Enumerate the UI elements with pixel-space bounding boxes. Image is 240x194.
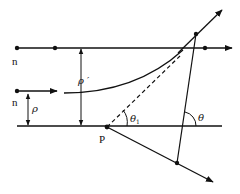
lower-arrow — [107, 127, 213, 182]
label-n-mid: n — [12, 97, 18, 108]
label-rho: ρ — [32, 104, 38, 114]
incoming-dot — [15, 89, 19, 93]
theta1-arc — [123, 110, 127, 126]
theta-arc — [185, 112, 196, 126]
label-point-P: P — [99, 134, 105, 145]
curved-trajectory — [64, 50, 183, 93]
label-n-top: n — [12, 56, 18, 67]
top-right-dot — [203, 46, 207, 50]
label-rho-prime: ρ ′ — [78, 76, 89, 86]
label-theta: θ — [198, 113, 204, 123]
theta1-subscript: 1 — [136, 118, 140, 125]
top-left-dot — [15, 46, 19, 50]
label-theta1: θ1 — [130, 114, 140, 125]
dashed-asymptote — [107, 56, 180, 127]
outgoing-arrow — [178, 10, 222, 53]
scattering-diagram — [0, 0, 240, 194]
top-mid-dot — [53, 46, 57, 50]
